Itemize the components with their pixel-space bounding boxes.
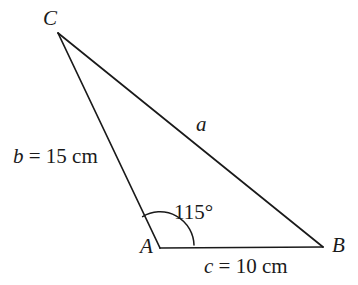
vertex-label-b: B — [332, 235, 345, 256]
side-b-value: 15 — [46, 144, 67, 168]
angle-label-a: 115° — [174, 202, 213, 223]
side-c-variable: c — [204, 254, 213, 278]
side-c-value: 10 — [236, 254, 257, 278]
side-b-variable: b — [13, 144, 24, 168]
side-label-a: a — [196, 114, 207, 135]
side-b-equals: = — [24, 144, 46, 168]
side-label-c: c = 10 cm — [204, 256, 288, 277]
side-b-unit: cm — [67, 144, 98, 168]
side-c-line-AB — [160, 247, 323, 248]
figure-background — [0, 0, 358, 285]
side-c-unit: cm — [257, 254, 288, 278]
vertex-label-a: A — [140, 236, 153, 257]
side-c-equals: = — [213, 254, 235, 278]
triangle-figure — [0, 0, 358, 285]
side-label-b: b = 15 cm — [13, 146, 98, 167]
vertex-label-c: C — [43, 8, 57, 29]
